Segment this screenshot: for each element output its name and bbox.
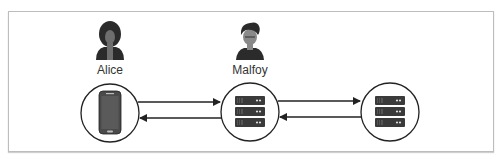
server-stack-icon: [235, 96, 265, 127]
malfoy-label: Malfoy: [210, 63, 290, 77]
smartphone-icon: [99, 91, 121, 134]
diagram-canvas: [0, 0, 502, 156]
alice-label: Alice: [70, 63, 150, 77]
server-stack-icon: [375, 96, 405, 127]
man-avatar-icon: [236, 22, 264, 60]
woman-avatar-icon: [96, 21, 124, 60]
